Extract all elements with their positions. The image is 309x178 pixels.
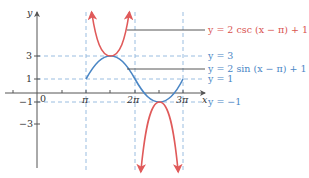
label-ym1: y = −1 (208, 97, 241, 107)
x-axis-label: x (202, 95, 207, 105)
y-tick-3: 3 (26, 51, 32, 61)
cosecant-branch-up (92, 14, 129, 56)
label-y1: y = 1 (208, 74, 233, 84)
label-pointers (127, 30, 205, 69)
label-csc: y = 2 csc (x − π) + 1 (208, 25, 308, 35)
x-tick-pi: π (82, 95, 88, 105)
y-tick-neg1: −1 (19, 97, 33, 107)
y-tick-1: 1 (26, 74, 32, 84)
x-tick-3pi: 3π (176, 95, 188, 105)
y-tick-neg3: −3 (19, 119, 33, 129)
cosecant-branch-down (141, 102, 178, 170)
x-tick-0: 0 (40, 94, 46, 104)
y-axis-label: y (27, 8, 32, 18)
x-tick-2pi: 2π (127, 95, 139, 105)
label-y3: y = 3 (208, 51, 233, 61)
